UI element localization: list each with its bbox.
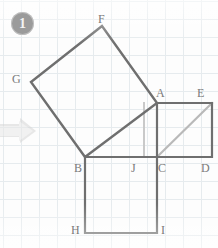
vertex-label-E: E [197, 87, 204, 99]
vertex-label-D: D [201, 162, 210, 174]
vertex-label-I: I [161, 224, 165, 236]
step-number-badge: 1 [11, 12, 34, 35]
vertex-label-G: G [12, 73, 21, 85]
vertex-label-A: A [156, 87, 165, 99]
tilted-square-on-hypotenuse [31, 26, 157, 157]
vertex-label-H: H [71, 224, 80, 236]
diagram-canvas: 1 F G A E B J C D H I [0, 0, 218, 248]
next-step-arrow [0, 118, 36, 143]
vertex-label-C: C [158, 162, 166, 174]
geometry-figure [0, 0, 218, 248]
vertex-label-J: J [131, 162, 136, 174]
diagonal-C-to-E-line [157, 103, 212, 157]
vertex-label-B: B [74, 162, 82, 174]
vertex-label-F: F [98, 13, 105, 25]
bottom-square-BCIH [85, 157, 157, 233]
